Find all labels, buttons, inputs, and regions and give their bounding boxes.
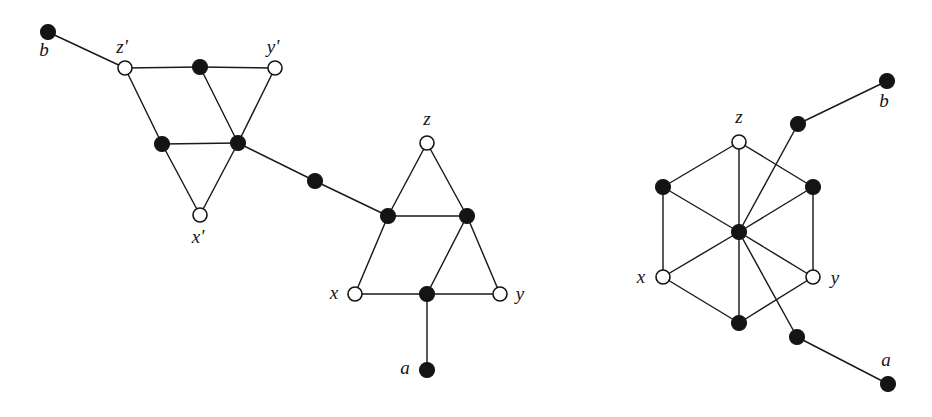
graph-edge	[427, 216, 467, 294]
graph-edge	[427, 143, 467, 216]
vertex-label-a: a	[400, 357, 410, 378]
graph-vertex	[806, 180, 821, 195]
vertex-label-z: z	[734, 106, 743, 127]
graph-edge	[739, 232, 797, 337]
graph-vertex-b	[41, 25, 56, 40]
graph-edge	[663, 142, 739, 187]
vertex-label-b: b	[879, 90, 889, 111]
graph-edge	[798, 81, 887, 124]
graph-vertex-b	[880, 74, 895, 89]
graph-vertex-x-prime	[193, 208, 207, 222]
graph-diagram: bz'y'x'zxyabzxya	[0, 0, 932, 417]
graph-vertex-x	[656, 270, 670, 284]
graph-vertex-y	[806, 270, 820, 284]
graph-edge	[315, 181, 388, 216]
graph-edge	[355, 216, 388, 294]
graph-edge	[797, 337, 888, 384]
vertex-label-z: z	[422, 108, 431, 129]
graph-edge	[238, 143, 315, 181]
graph-vertex-x	[348, 287, 362, 301]
label-layer: bz'y'x'zxyabzxya	[39, 36, 891, 378]
graph-edge	[48, 32, 125, 68]
graph-vertex	[308, 174, 323, 189]
graph-edge	[739, 142, 813, 187]
graph-vertex	[231, 136, 246, 151]
graph-edge	[200, 143, 238, 215]
graph-edge	[467, 216, 500, 294]
graph-edge	[162, 144, 200, 215]
vertex-label-x-prime: x'	[191, 226, 205, 247]
graph-edge	[200, 67, 238, 143]
graph-vertex-a	[420, 363, 435, 378]
vertex-label-y: y	[514, 283, 525, 304]
graph-edge	[388, 143, 427, 216]
graph-edge	[125, 67, 200, 68]
graph-vertex-y	[493, 287, 507, 301]
graph-edge	[238, 68, 275, 143]
graph-vertex	[656, 180, 671, 195]
graph-vertex	[791, 117, 806, 132]
graph-vertex-z	[420, 136, 434, 150]
vertex-label-x: x	[329, 282, 339, 303]
graph-edge	[663, 187, 739, 232]
vertex-label-a: a	[881, 349, 891, 370]
graph-vertex	[420, 287, 435, 302]
vertex-label-z-prime: z'	[115, 36, 128, 57]
graph-vertex	[460, 209, 475, 224]
graph-vertex-z-prime	[118, 61, 132, 75]
graph-vertex	[790, 330, 805, 345]
graph-edge	[125, 68, 162, 144]
node-layer	[41, 25, 896, 392]
graph-edge	[663, 232, 739, 277]
graph-vertex	[381, 209, 396, 224]
graph-edge	[739, 124, 798, 232]
graph-vertex	[732, 225, 747, 240]
vertex-label-y-prime: y'	[265, 36, 280, 57]
graph-vertex	[732, 316, 747, 331]
vertex-label-y: y	[829, 267, 840, 288]
graph-vertex-z	[732, 135, 746, 149]
graph-edge	[739, 187, 813, 232]
graph-edge	[162, 143, 238, 144]
graph-vertex	[193, 60, 208, 75]
graph-edge	[200, 67, 275, 68]
graph-edge	[663, 277, 739, 323]
graph-edge	[739, 232, 813, 277]
graph-vertex-a	[881, 377, 896, 392]
vertex-label-b: b	[39, 39, 49, 60]
graph-vertex-y-prime	[268, 61, 282, 75]
figure-canvas: bz'y'x'zxyabzxya	[0, 0, 932, 417]
graph-vertex	[155, 137, 170, 152]
vertex-label-x: x	[636, 266, 646, 287]
edge-layer	[48, 32, 888, 384]
